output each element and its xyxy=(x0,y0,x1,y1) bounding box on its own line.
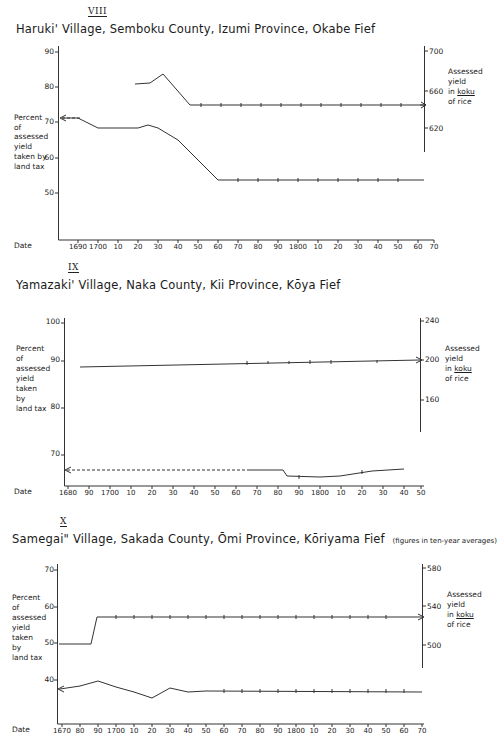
x-tick-label: 1700 xyxy=(101,489,119,497)
x-tick-label: 80 xyxy=(254,243,263,251)
right-axis-ticks xyxy=(425,51,429,128)
figure-ix-plot xyxy=(0,262,488,514)
x-tick-label: 90 xyxy=(274,243,283,251)
right-axis-ticks xyxy=(423,568,427,645)
x-tick-label: 70 xyxy=(418,727,427,735)
x-tick-label: 30 xyxy=(379,489,388,497)
left-axis-ticks xyxy=(55,52,59,193)
x-tick-label: 1700 xyxy=(89,243,107,251)
x-tick-label: 20 xyxy=(148,489,157,497)
x-tick-label: 40 xyxy=(190,489,199,497)
x-tick-label: 10 xyxy=(127,489,136,497)
x-tick-label: 40 xyxy=(174,243,183,251)
x-tick-label: 80 xyxy=(274,489,283,497)
x-tick-label: 1700 xyxy=(107,727,125,735)
figure-viii: VIII Haruki' Village, Semboku County, Iz… xyxy=(0,0,488,260)
x-tick-label: 80 xyxy=(256,727,265,735)
x-tick-label: 1690 xyxy=(69,243,87,251)
figure-x-plot xyxy=(0,516,488,756)
x-tick-label: 10 xyxy=(314,243,323,251)
x-tick-label: 20 xyxy=(358,489,367,497)
x-tick-label: 70 xyxy=(234,243,243,251)
x-tick-label: 1800 xyxy=(287,727,305,735)
x-tick-label: 30 xyxy=(354,243,363,251)
x-tick-label: 10 xyxy=(337,489,346,497)
left-axis-ticks xyxy=(61,323,65,455)
x-tick-label: 30 xyxy=(169,489,178,497)
x-tick-label: 40 xyxy=(184,727,193,735)
x-tick-label: 70 xyxy=(430,243,439,251)
series-assessed-yield xyxy=(135,74,424,105)
x-tick-label: 50 xyxy=(417,489,426,497)
figure-x: X Samegai" Village, Sakada County, Ōmi P… xyxy=(0,516,488,756)
x-tick-label: 60 xyxy=(232,489,241,497)
x-tick-label: 70 xyxy=(238,727,247,735)
x-tick-label: 10 xyxy=(114,243,123,251)
x-tick-label: 90 xyxy=(85,489,94,497)
x-tick-label: 40 xyxy=(374,243,383,251)
x-tick-label: 20 xyxy=(148,727,157,735)
x-tick-label: 10 xyxy=(130,727,139,735)
x-tick-label: 50 xyxy=(194,243,203,251)
x-tick-label: 50 xyxy=(211,489,220,497)
x-tick-label: 90 xyxy=(295,489,304,497)
x-tick-label: 20 xyxy=(334,243,343,251)
x-tick-label: 1800 xyxy=(289,243,307,251)
series-percent-tax xyxy=(250,469,404,477)
x-tick-label: 90 xyxy=(94,727,103,735)
series-assessed-yield xyxy=(80,360,420,367)
x-tick-label: 1800 xyxy=(311,489,329,497)
x-tick-label: 1680 xyxy=(59,489,77,497)
x-tick-label: 60 xyxy=(214,243,223,251)
x-tick-label: 50 xyxy=(394,243,403,251)
series-percent-tax xyxy=(62,118,424,180)
x-tick-label: 30 xyxy=(166,727,175,735)
x-axis-caption: Date xyxy=(14,241,32,250)
x-tick-label: 20 xyxy=(328,727,337,735)
x-tick-label: 10 xyxy=(310,727,319,735)
x-tick-label: 30 xyxy=(346,727,355,735)
x-tick-label: 40 xyxy=(364,727,373,735)
x-tick-label: 60 xyxy=(220,727,229,735)
x-tick-label: 20 xyxy=(134,243,143,251)
x-tick-label: 90 xyxy=(274,727,283,735)
x-tick-label: 50 xyxy=(202,727,211,735)
x-tick-label: 40 xyxy=(400,489,409,497)
x-axis-caption: Date xyxy=(14,487,32,496)
x-tick-label: 30 xyxy=(154,243,163,251)
left-axis-ticks xyxy=(54,570,58,680)
x-axis-caption: Date xyxy=(12,725,30,734)
arrow-to-right-axis-upper xyxy=(420,102,426,108)
x-tick-label: 80 xyxy=(76,727,85,735)
series-assessed-yield xyxy=(59,617,422,644)
x-tick-label: 60 xyxy=(414,243,423,251)
x-tick-label: 1670 xyxy=(53,727,71,735)
x-tick-label: 70 xyxy=(253,489,262,497)
x-tick-label: 60 xyxy=(400,727,409,735)
figure-viii-plot xyxy=(0,0,488,260)
figure-ix: IX Yamazaki' Village, Naka County, Kii P… xyxy=(0,262,488,514)
x-tick-label: 50 xyxy=(382,727,391,735)
